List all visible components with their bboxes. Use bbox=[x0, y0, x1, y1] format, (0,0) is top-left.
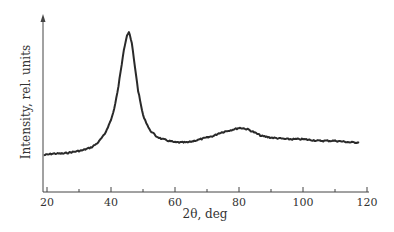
x-tick-label: 20 bbox=[40, 196, 54, 209]
x-tick-label: 40 bbox=[104, 196, 118, 209]
x-tick-label: 60 bbox=[168, 196, 182, 209]
x-tick-label: 80 bbox=[232, 196, 246, 209]
plot-area: 20406080100120 2θ, deg Intensity, rel. u… bbox=[0, 0, 394, 232]
xrd-chart: 20406080100120 2θ, deg Intensity, rel. u… bbox=[0, 0, 394, 232]
y-axis-arrow-icon bbox=[41, 14, 46, 22]
xrd-curve bbox=[44, 32, 359, 155]
axes: 20406080100120 bbox=[40, 14, 378, 209]
data-series bbox=[44, 32, 359, 155]
x-tick-label: 120 bbox=[357, 196, 378, 209]
axis-labels: 2θ, deg Intensity, rel. units bbox=[19, 45, 228, 221]
x-tick-label: 100 bbox=[293, 196, 314, 209]
y-axis-label: Intensity, rel. units bbox=[19, 45, 33, 159]
x-axis-label: 2θ, deg bbox=[183, 207, 228, 221]
